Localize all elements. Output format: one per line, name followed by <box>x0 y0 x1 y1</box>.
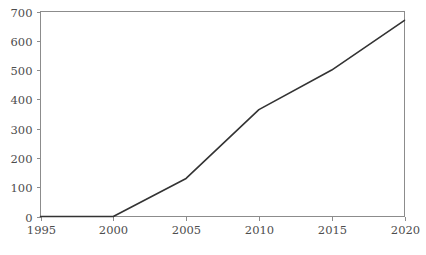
y-tick-label: 400 <box>11 93 33 107</box>
y-tick-label: 300 <box>11 123 33 137</box>
x-tick-label: 1995 <box>27 223 56 237</box>
x-tick-label: 2005 <box>172 223 201 237</box>
x-tick-label: 2020 <box>391 223 420 237</box>
y-tick-label: 100 <box>11 181 33 195</box>
plot-area-background <box>40 11 404 216</box>
line-chart: 0100200300400500600700 19952000200520102… <box>0 0 426 255</box>
y-tick-label: 200 <box>11 152 33 166</box>
y-tick-label: 500 <box>11 64 33 78</box>
chart-figure: 0100200300400500600700 19952000200520102… <box>0 0 426 255</box>
x-tick-label: 2010 <box>245 223 274 237</box>
y-tick-label: 600 <box>11 35 33 49</box>
y-tick-label: 700 <box>11 6 33 20</box>
x-tick-label: 2015 <box>318 223 347 237</box>
x-tick-label: 2000 <box>99 223 128 237</box>
